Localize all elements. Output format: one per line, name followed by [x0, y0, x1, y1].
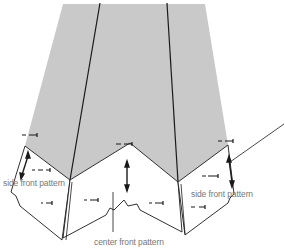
- center-front-pattern-label: center front pattern: [94, 237, 164, 247]
- right-side-front-pattern-label: side front pattern: [191, 189, 253, 199]
- left-side-front-pattern-label: side front pattern: [3, 178, 65, 188]
- pointer-line: [230, 124, 284, 162]
- pattern-diagram: [0, 0, 285, 248]
